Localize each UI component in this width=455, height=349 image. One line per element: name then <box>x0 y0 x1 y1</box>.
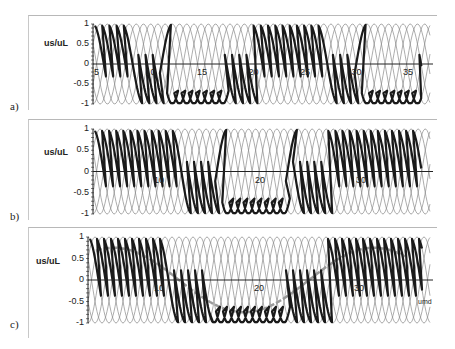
x-tick-label: 10 <box>146 67 160 77</box>
y-tick-label: -1 <box>62 317 84 327</box>
y-tick-label: 0.5 <box>62 253 84 263</box>
x-tick-label: 30 <box>354 283 368 293</box>
y-tick-label: 0 <box>62 274 84 284</box>
x-tick-label: 10 <box>154 283 168 293</box>
x-tick-label: 10 <box>154 175 168 185</box>
y-tick-label: 0.5 <box>67 38 89 48</box>
y-tick-label: 0 <box>67 166 89 176</box>
y-tick-label: 0 <box>67 58 89 68</box>
x-tick-label: 15 <box>197 67 211 77</box>
y-tick-label: -0.5 <box>67 187 89 197</box>
y-tick-label: -1 <box>67 208 89 218</box>
y-tick-label: -0.5 <box>62 296 84 306</box>
y-tick-label: 1 <box>67 123 89 133</box>
x-tick-label: 20 <box>249 67 263 77</box>
y-tick-label: 1 <box>62 231 84 241</box>
annotation-umd: umd <box>418 298 438 305</box>
x-tick-label: 5 <box>94 67 108 77</box>
y-tick-label: 0.5 <box>67 144 89 154</box>
x-tick-label: 20 <box>254 283 268 293</box>
y-tick-label: -1 <box>67 98 89 108</box>
x-tick-label: 30 <box>352 67 366 77</box>
x-tick-label: 25 <box>300 67 314 77</box>
y-tick-label: 1 <box>67 18 89 28</box>
y-tick-label: -0.5 <box>67 78 89 88</box>
x-tick-label: 30 <box>356 175 370 185</box>
x-tick-label: 20 <box>255 175 269 185</box>
x-tick-label: 35 <box>403 67 417 77</box>
